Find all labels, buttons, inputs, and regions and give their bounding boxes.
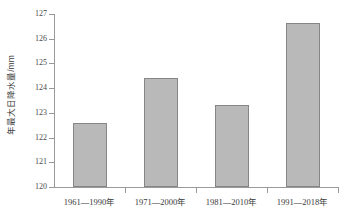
bar bbox=[286, 23, 320, 187]
y-axis-tick-label-wrap: 127 bbox=[0, 9, 47, 19]
y-axis-tick-label-wrap: 120 bbox=[0, 182, 47, 192]
y-axis-tick-label-wrap: 122 bbox=[0, 133, 47, 143]
bar-chart-figure: 年最大日降水量/mm 127126125124123122121120 1961… bbox=[0, 0, 353, 224]
y-axis-tick bbox=[49, 138, 54, 139]
y-axis-tick-label: 126 bbox=[1, 34, 47, 43]
y-axis-tick bbox=[49, 14, 54, 15]
y-axis-tick-label-wrap: 126 bbox=[0, 34, 47, 44]
x-axis-category-label: 1971—2000年 bbox=[125, 195, 196, 207]
y-axis-tick-label: 125 bbox=[1, 58, 47, 67]
y-axis-tick bbox=[49, 88, 54, 89]
y-axis-tick-label: 123 bbox=[1, 108, 47, 117]
x-axis-tick bbox=[267, 188, 268, 193]
x-axis-tick bbox=[125, 188, 126, 193]
y-axis-tick bbox=[49, 39, 54, 40]
y-axis-line bbox=[54, 14, 55, 188]
x-axis-tick bbox=[196, 188, 197, 193]
y-axis-tick bbox=[49, 187, 54, 188]
y-axis-tick bbox=[49, 162, 54, 163]
y-axis-tick bbox=[49, 113, 54, 114]
y-axis-tick-label: 122 bbox=[1, 133, 47, 142]
y-axis-tick-label: 120 bbox=[1, 182, 47, 191]
x-axis-category-label: 1991—2018年 bbox=[267, 195, 338, 207]
x-axis-category-label: 1981—2010年 bbox=[196, 195, 267, 207]
y-axis-tick-label-wrap: 123 bbox=[0, 108, 47, 118]
y-axis-tick bbox=[49, 63, 54, 64]
y-axis-tick-label: 121 bbox=[1, 157, 47, 166]
bar bbox=[215, 105, 249, 187]
y-axis-tick-label-wrap: 121 bbox=[0, 157, 47, 167]
x-axis-category-label: 1961—1990年 bbox=[54, 195, 125, 207]
y-axis-tick-label: 127 bbox=[1, 9, 47, 18]
x-axis-tick bbox=[338, 188, 339, 193]
bar bbox=[73, 123, 107, 187]
y-axis-tick-label-wrap: 124 bbox=[0, 83, 47, 93]
y-axis-tick-label: 124 bbox=[1, 83, 47, 92]
y-axis-tick-label-wrap: 125 bbox=[0, 58, 47, 68]
bar bbox=[144, 78, 178, 187]
